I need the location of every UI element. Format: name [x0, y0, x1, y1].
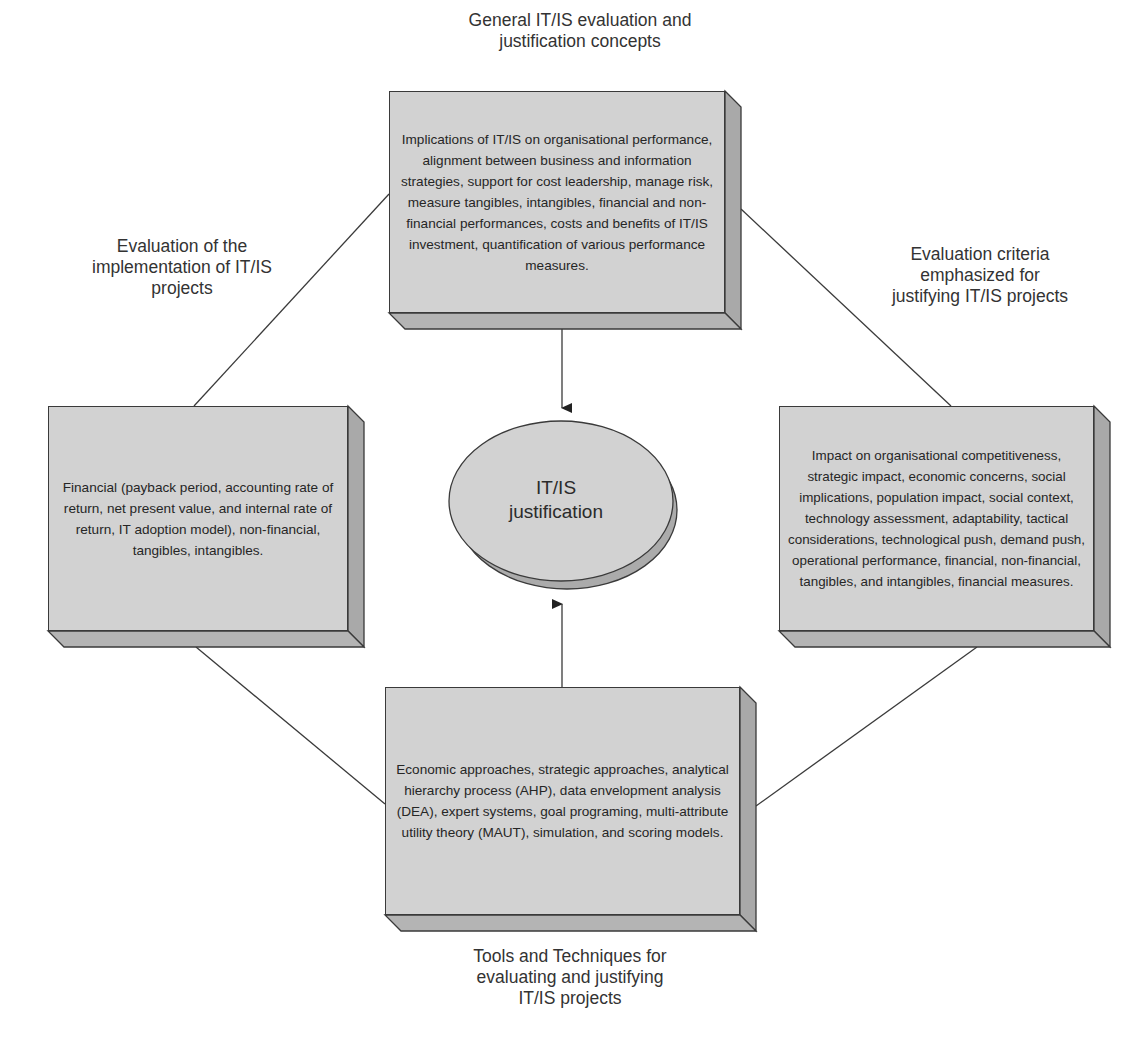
line-top-left: [194, 194, 389, 406]
box-face: Financial (payback period, accounting ra…: [48, 406, 348, 631]
box-face: Impact on organisational competitiveness…: [779, 406, 1094, 631]
box-face: Implications of IT/IS on organisational …: [389, 91, 725, 313]
top-title-line-2: justification concepts: [380, 31, 780, 52]
implementation-evaluation-text: Financial (payback period, accounting ra…: [50, 477, 346, 561]
bottom-title-line-3: IT/IS projects: [420, 988, 720, 1009]
evaluation-criteria-text: Impact on organisational competitiveness…: [780, 445, 1093, 592]
top-section-title: General IT/IS evaluation and justificati…: [380, 10, 780, 52]
tools-techniques-box: Economic approaches, strategic approache…: [385, 687, 756, 931]
left-title-line-2: implementation of IT/IS: [62, 257, 302, 278]
left-section-title: Evaluation of the implementation of IT/I…: [62, 236, 302, 299]
general-concepts-text: Implications of IT/IS on organisational …: [393, 129, 721, 276]
right-title-line-2: emphasized for: [850, 265, 1110, 286]
bottom-section-title: Tools and Techniques for evaluating and …: [420, 946, 720, 1009]
right-title-line-1: Evaluation criteria: [850, 244, 1110, 265]
right-section-title: Evaluation criteria emphasized for justi…: [850, 244, 1110, 307]
center-label-line-1: IT/IS: [536, 476, 576, 500]
center-label: IT/IS justification: [441, 419, 671, 581]
line-right-bottom: [756, 647, 977, 806]
tools-techniques-text: Economic approaches, strategic approache…: [387, 759, 739, 843]
line-left-bottom: [196, 647, 385, 804]
evaluation-criteria-box: Impact on organisational competitiveness…: [779, 406, 1110, 647]
right-title-line-3: justifying IT/IS projects: [850, 286, 1110, 307]
line-top-right: [741, 209, 951, 406]
implementation-evaluation-box: Financial (payback period, accounting ra…: [48, 406, 364, 647]
box-face: Economic approaches, strategic approache…: [385, 687, 740, 915]
left-title-line-3: projects: [62, 278, 302, 299]
general-concepts-box: Implications of IT/IS on organisational …: [389, 91, 741, 329]
it-is-justification-node: IT/IS justification: [441, 419, 681, 591]
center-label-line-2: justification: [509, 500, 603, 524]
top-title-line-1: General IT/IS evaluation and: [380, 10, 780, 31]
bottom-title-line-2: evaluating and justifying: [420, 967, 720, 988]
left-title-line-1: Evaluation of the: [62, 236, 302, 257]
bottom-title-line-1: Tools and Techniques for: [420, 946, 720, 967]
